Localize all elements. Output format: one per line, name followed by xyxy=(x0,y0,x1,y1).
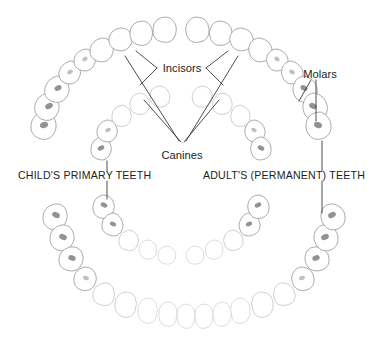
lower-child-right-molars xyxy=(239,195,269,236)
lower-child-arch xyxy=(93,195,269,264)
canines-label: Canines xyxy=(161,149,202,161)
lower-child-right-anterior xyxy=(186,230,243,264)
dental-arch-diagram: Incisors Canines Molars CHILD'S PRIMARY … xyxy=(0,0,377,346)
lower-right-anterior xyxy=(195,292,273,328)
lower-right-premolars xyxy=(274,267,315,306)
child-primary-teeth-caption: CHILD'S PRIMARY TEETH xyxy=(18,169,151,181)
upper-adult-arch xyxy=(31,17,331,139)
lower-child-left-anterior xyxy=(119,230,176,264)
upper-left-anterior xyxy=(90,17,176,62)
upper-left-molars xyxy=(31,76,69,139)
incisors-label: Incisors xyxy=(163,62,202,74)
lower-left-molars xyxy=(43,204,83,271)
molars-label: Molars xyxy=(303,68,337,80)
lower-child-left-molars xyxy=(93,195,123,236)
lower-right-molars xyxy=(305,204,345,271)
upper-right-molars xyxy=(293,76,331,139)
lower-left-premolars xyxy=(74,267,115,306)
upper-child-right-anterior xyxy=(192,86,250,127)
lower-left-anterior xyxy=(115,292,195,328)
upper-right-anterior xyxy=(186,17,272,62)
upper-child-left-molars xyxy=(91,120,117,160)
upper-child-right-molars xyxy=(245,120,271,160)
upper-child-left-anterior xyxy=(112,86,170,127)
lower-adult-arch xyxy=(43,204,345,329)
adult-permanent-teeth-caption: ADULT'S (PERMANENT) TEETH xyxy=(203,169,365,181)
